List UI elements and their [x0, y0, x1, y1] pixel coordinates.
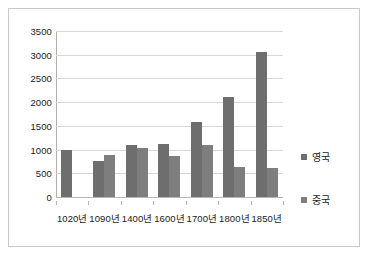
y-axis-tick-label: 500	[36, 168, 52, 179]
y-axis-tick-labels: 3500300025002000150010005000	[9, 31, 52, 197]
plot-area	[56, 31, 283, 197]
bar-group	[153, 31, 185, 197]
x-axis-tick-label: 1700년	[187, 211, 218, 225]
x-axis-tick	[121, 201, 122, 205]
x-axis-tick-labels: 1020년1090년1400년1600년1700년1800년1850년	[56, 201, 283, 241]
legend-item: 중국	[301, 192, 357, 207]
bar-series-1	[191, 122, 202, 197]
legend-swatch-icon	[301, 197, 307, 203]
legend-item: 영국	[301, 149, 357, 164]
bar-group	[121, 31, 153, 197]
bar-series-1	[223, 97, 234, 197]
bar-series-1	[126, 145, 137, 197]
chart-legend: 영국중국	[301, 149, 357, 235]
bar-series-1	[256, 52, 267, 197]
x-axis-tick-label: 1800년	[219, 211, 250, 225]
legend-swatch-icon	[301, 154, 307, 160]
y-axis-tick-label: 0	[47, 192, 52, 203]
legend-label: 영국	[312, 149, 330, 164]
bar-group	[251, 31, 283, 197]
chart-frame: 3500300025002000150010005000 1020년1090년1…	[8, 8, 360, 247]
y-axis-tick-label: 1000	[30, 144, 52, 155]
y-axis-tick-label: 2500	[30, 73, 52, 84]
y-axis-tick-label: 1500	[30, 120, 52, 131]
x-axis-tick	[186, 201, 187, 205]
bar-series-2	[202, 145, 213, 197]
bar-series-2	[267, 168, 278, 197]
legend-label: 중국	[312, 192, 330, 207]
x-axis-tick	[153, 201, 154, 205]
bar-series-2	[104, 155, 115, 197]
x-axis-tick-label: 1600년	[154, 211, 185, 225]
x-axis-tick	[56, 201, 57, 205]
x-axis-tick-label: 1850년	[251, 211, 282, 225]
x-axis-tick-label: 1020년	[57, 211, 88, 225]
bar-series-1	[93, 161, 104, 197]
x-axis-tick	[283, 201, 284, 205]
bar-group	[56, 31, 88, 197]
bar-series-2	[234, 167, 245, 197]
x-axis-tick	[251, 201, 252, 205]
bar-group	[218, 31, 250, 197]
x-axis-tick-label: 1400년	[122, 211, 153, 225]
x-axis-tick-label: 1090년	[89, 211, 120, 225]
bar-group	[88, 31, 120, 197]
y-axis-tick-label: 3000	[30, 49, 52, 60]
bar-series-2	[169, 156, 180, 197]
x-axis-tick	[88, 201, 89, 205]
gridline	[56, 197, 283, 198]
bar-series-2	[137, 148, 148, 197]
bar-group	[186, 31, 218, 197]
y-axis-tick-label: 3500	[30, 26, 52, 37]
bar-series-1	[61, 150, 72, 197]
y-axis-tick-label: 2000	[30, 97, 52, 108]
x-axis-tick	[218, 201, 219, 205]
bar-series-1	[158, 144, 169, 197]
